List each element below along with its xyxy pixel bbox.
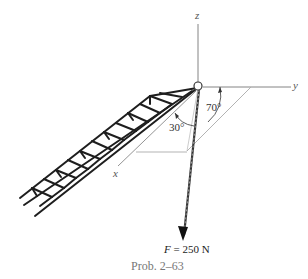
diagram-canvas: [0, 0, 308, 279]
z-axis-label: z: [195, 10, 199, 21]
y-axis-label: y: [293, 80, 298, 91]
force-label: F = 250 N: [164, 244, 210, 255]
pin-joint: [194, 82, 202, 90]
angle-label-70: 70°: [206, 102, 221, 113]
x-axis-label: x: [113, 168, 118, 179]
force-value: = 250 N: [171, 243, 210, 255]
force-symbol: F: [164, 243, 171, 255]
force-arrowhead: [178, 226, 188, 241]
figure-caption: Prob. 2–63: [131, 260, 184, 272]
angle-label-30: 30°: [169, 122, 184, 133]
angle-arrowhead-70: [218, 87, 222, 93]
